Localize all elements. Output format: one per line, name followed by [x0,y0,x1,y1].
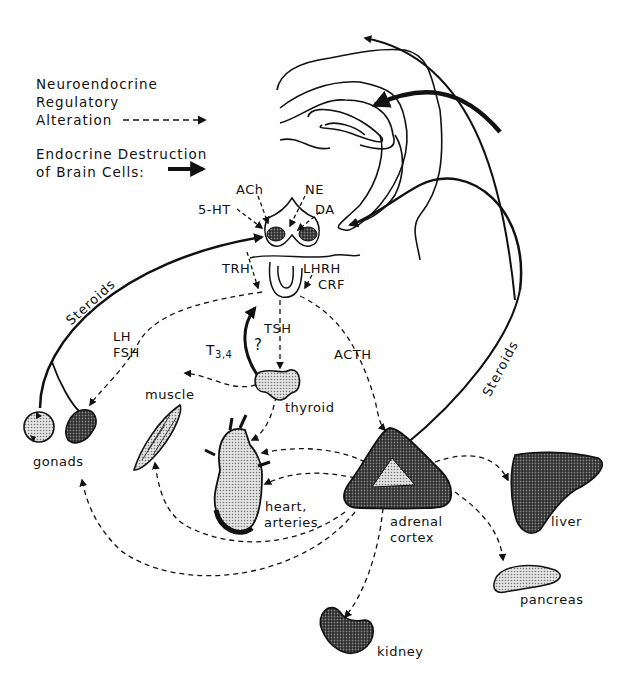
label-crf: CRF [318,278,345,291]
label-lhrh: LHRH [303,262,341,275]
label-t34-base: T [206,342,215,358]
label-5ht: 5-HT [198,203,231,216]
label-t34: T3,4 [206,343,232,360]
gonad-ovary [66,410,96,443]
adrenal-cortex-shape [344,428,451,509]
legend-line1: Endocrine Destruction [36,145,207,163]
muscle-shape [134,405,181,470]
kidney-shape [320,608,373,654]
pituitary [270,262,303,297]
label-heart: heart, [265,500,307,513]
legend-line2: of Brain Cells: [36,163,207,181]
legend-destruction: Endocrine Destruction of Brain Cells: [36,145,207,181]
label-da: DA [315,203,335,216]
label-lh: LH [113,330,131,343]
label-kidney: kidney [377,645,423,658]
label-thyroid: thyroid [285,401,334,414]
label-arteries: arteries [264,516,318,529]
gonad-testis [24,412,54,442]
label-trh: TRH [222,262,250,275]
hypothalamus [250,198,360,258]
label-question: ? [254,338,262,353]
label-liver: liver [551,515,582,528]
legend-line1: Neuroendocrine [36,75,158,93]
label-cortex: cortex [390,531,434,544]
label-tsh: TSH [264,322,291,335]
label-t34-sub: 3,4 [215,349,232,360]
legend-line2: Regulatory [36,93,158,111]
label-gonads: gonads [33,455,83,468]
thyroid-gland [255,370,300,400]
label-acth: ACTH [334,348,371,361]
pancreas-shape [494,566,560,593]
label-muscle: muscle [145,388,194,401]
legend-regulatory: Neuroendocrine Regulatory Alteration [36,75,158,129]
label-pancreas: pancreas [520,593,583,606]
legend-line3: Alteration [36,111,158,129]
label-adrenal: adrenal [390,515,443,528]
label-ach: ACh [236,183,263,196]
label-ne: NE [305,183,324,196]
label-fsh: FSH [113,346,140,359]
